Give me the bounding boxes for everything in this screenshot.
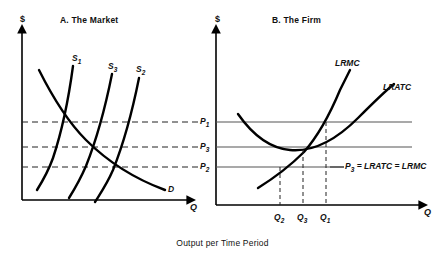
p2-sub: 2 <box>206 166 210 173</box>
panel-title-firm: B. The Firm <box>272 15 321 25</box>
price-label-p3: P3 <box>200 141 209 153</box>
s1-sub: 1 <box>78 58 82 65</box>
supply-curve-s3 <box>69 74 112 198</box>
market-y-axis-label: $ <box>20 14 25 24</box>
supply-curve-s2 <box>95 78 139 202</box>
s3-sub: 3 <box>114 66 118 73</box>
market-x-axis-label: Q <box>190 202 197 212</box>
figure-caption: Output per Time Period <box>0 238 445 248</box>
lrmc-curve <box>258 70 350 188</box>
p1-sub: 1 <box>206 121 210 128</box>
demand-curve-d <box>39 70 165 190</box>
equation-rhs: = LRATC = LRMC <box>354 161 426 171</box>
lrmc-curve-label: LRMC <box>335 58 360 68</box>
q1-base: Q <box>320 212 327 222</box>
price-label-p2: P2 <box>200 161 209 173</box>
panel-firm <box>216 32 420 205</box>
q1-sub: 1 <box>327 217 331 224</box>
supply-curve-label-s3: S3 <box>108 61 117 73</box>
s2-sub: 2 <box>142 69 146 76</box>
quantity-label-q1: Q1 <box>320 212 330 224</box>
quantity-label-q3: Q3 <box>297 212 307 224</box>
q3-base: Q <box>297 212 304 222</box>
quantity-label-q2: Q2 <box>274 212 284 224</box>
q2-base: Q <box>274 212 281 222</box>
q2-sub: 2 <box>281 217 285 224</box>
lratc-curve <box>238 84 394 150</box>
price-label-p1: P1 <box>200 116 209 128</box>
equilibrium-equation-annotation: P3 = LRATC = LRMC <box>345 161 426 173</box>
firm-x-axis-label: Q <box>424 207 431 217</box>
q3-sub: 3 <box>304 217 308 224</box>
supply-curve-label-s1: S1 <box>72 53 81 65</box>
panel-title-market: A. The Market <box>60 15 118 25</box>
demand-curve-label-d: D <box>168 184 174 194</box>
p3-sub: 3 <box>206 146 210 153</box>
figure-canvas <box>0 0 445 259</box>
supply-curve-s1 <box>37 66 73 190</box>
supply-curve-label-s2: S2 <box>136 64 145 76</box>
economics-figure: A. The Market B. The Firm $ $ Q Q S1 S3 … <box>0 0 445 259</box>
panel-market <box>22 32 198 202</box>
firm-y-axis-label: $ <box>215 14 220 24</box>
lratc-curve-label: LRATC <box>383 82 411 92</box>
